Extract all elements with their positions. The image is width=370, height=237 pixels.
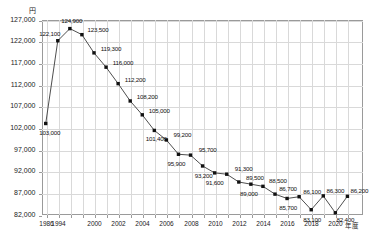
data-point-label: 101,400 — [146, 135, 167, 142]
data-point-label: 124,900 — [61, 17, 82, 24]
data-point-marker — [297, 195, 300, 198]
data-point-label: 123,500 — [87, 26, 108, 33]
data-point-marker — [56, 39, 59, 42]
data-point-label: 91,600 — [206, 179, 224, 186]
data-point-label: 91,300 — [235, 165, 253, 172]
data-point-marker — [129, 99, 132, 102]
data-point-label: 116,000 — [113, 59, 134, 66]
data-point-label: 83,100 — [303, 216, 321, 223]
data-point-marker — [249, 182, 252, 185]
data-point-marker — [310, 208, 313, 211]
data-point-marker — [44, 122, 47, 125]
data-point-marker — [237, 180, 240, 183]
data-point-label: 108,200 — [137, 93, 158, 100]
data-point-label: 119,300 — [101, 45, 122, 52]
data-point-label: 122,100 — [39, 30, 60, 37]
data-point-label: 95,700 — [199, 146, 217, 153]
data-point-marker — [68, 27, 71, 30]
data-point-marker — [285, 197, 288, 200]
data-point-label: 93,200 — [195, 172, 213, 179]
data-point-label: 89,500 — [246, 174, 264, 181]
data-point-label: 89,000 — [240, 190, 258, 197]
data-point-marker — [225, 173, 228, 176]
data-point-label: 112,200 — [125, 76, 146, 83]
data-point-marker — [153, 129, 156, 132]
data-point-label: 85,700 — [279, 204, 297, 211]
data-point-label: 105,000 — [149, 107, 170, 114]
data-point-marker — [261, 185, 264, 188]
data-point-label: 86,200 — [351, 187, 369, 194]
line-chart: 円 82,00087,00092,00097,000102,000107,000… — [0, 0, 370, 237]
data-point-marker — [189, 153, 192, 156]
data-point-marker — [273, 192, 276, 195]
data-point-marker — [92, 51, 95, 54]
data-point-marker — [177, 153, 180, 156]
data-point-marker — [104, 65, 107, 68]
data-point-label: 86,300 — [326, 187, 344, 194]
data-point-label: 103,000 — [39, 129, 60, 136]
data-point-marker — [334, 211, 337, 214]
data-point-label: 88,500 — [269, 177, 287, 184]
data-point-marker — [201, 164, 204, 167]
data-point-label: 86,100 — [303, 188, 321, 195]
x-axis-title: 年度 — [345, 220, 359, 230]
data-point-marker — [213, 171, 216, 174]
data-point-marker — [80, 33, 83, 36]
data-point-marker — [141, 113, 144, 116]
series-polyline — [46, 29, 348, 213]
data-point-marker — [116, 82, 119, 85]
data-point-label: 99,200 — [174, 131, 192, 138]
data-point-label: 95,900 — [168, 160, 186, 167]
data-point-marker — [322, 194, 325, 197]
data-point-marker — [346, 195, 349, 198]
data-point-label: 86,700 — [279, 185, 297, 192]
